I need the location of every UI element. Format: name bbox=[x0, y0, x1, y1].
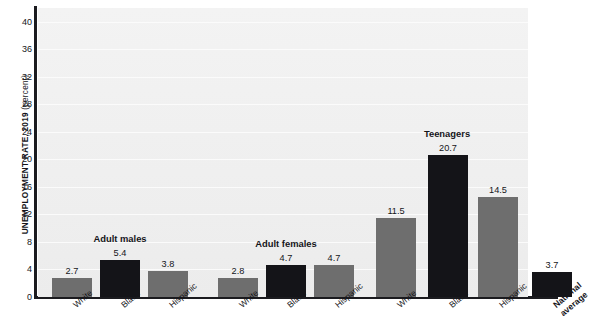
bar-rect bbox=[428, 155, 468, 297]
y-axis-tick-label: 0 bbox=[8, 292, 32, 302]
bar-value-label: 4.7 bbox=[280, 253, 293, 263]
group-label: Teenagers bbox=[424, 128, 470, 139]
y-axis-tick-label: 24 bbox=[8, 127, 32, 137]
bar-value-label: 20.7 bbox=[439, 143, 457, 153]
y-axis-tick-label: 8 bbox=[8, 237, 32, 247]
y-axis-tick-label: 4 bbox=[8, 264, 32, 274]
bar-rect bbox=[478, 197, 518, 297]
y-axis-tick-label: 20 bbox=[8, 154, 32, 164]
y-axis-line bbox=[34, 6, 37, 299]
group-label: Adult females bbox=[255, 238, 316, 249]
y-axis-tick-label: 28 bbox=[8, 99, 32, 109]
y-axis-tick-label: 12 bbox=[8, 209, 32, 219]
gridline bbox=[38, 22, 528, 23]
bar: 14.5 bbox=[478, 197, 518, 297]
gridline bbox=[38, 104, 528, 105]
bar-value-label: 2.8 bbox=[232, 266, 245, 276]
bar-value-label: 5.4 bbox=[114, 248, 127, 258]
bar-value-label: 14.5 bbox=[489, 185, 507, 195]
plot-area: 2.75.43.82.84.74.711.520.714.53.7 Adult … bbox=[38, 8, 528, 297]
gridline bbox=[38, 77, 528, 78]
y-axis-tick-label: 40 bbox=[8, 17, 32, 27]
y-axis-tick-label: 32 bbox=[8, 72, 32, 82]
bar-value-label: 2.7 bbox=[66, 266, 79, 276]
bar-value-label: 11.5 bbox=[387, 206, 404, 216]
bar: 20.7 bbox=[428, 155, 468, 297]
bar-value-label: 3.7 bbox=[546, 260, 559, 270]
y-axis-tick-label: 16 bbox=[8, 182, 32, 192]
gridline bbox=[38, 49, 528, 50]
bar-value-label: 4.7 bbox=[328, 253, 341, 263]
bar-rect bbox=[376, 218, 416, 297]
bar-value-label: 3.8 bbox=[162, 259, 175, 269]
group-label: Adult males bbox=[93, 233, 146, 244]
bar: 11.5 bbox=[376, 218, 416, 297]
y-axis-tick-labels: 0481216202428323640 bbox=[0, 0, 32, 336]
y-axis-tick-label: 36 bbox=[8, 44, 32, 54]
